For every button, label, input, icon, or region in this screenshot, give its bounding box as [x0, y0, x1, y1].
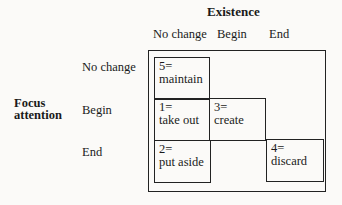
cell-action: create	[214, 114, 265, 127]
cell-discard: 4= discard	[266, 139, 324, 182]
row-group-title: Focus attention	[14, 97, 62, 121]
cell-action: put aside	[159, 156, 210, 169]
column-header-end: End	[269, 27, 289, 42]
cell-action: take out	[159, 114, 209, 127]
cell-action: discard	[271, 155, 323, 168]
cell-put-aside: 2= put aside	[154, 140, 211, 183]
column-header-begin: Begin	[217, 27, 247, 42]
column-group-title: Existence	[207, 4, 260, 20]
row-header-no-change: No change	[82, 60, 136, 75]
cell-take-out: 1= take out	[154, 98, 210, 141]
row-header-end: End	[82, 145, 102, 160]
row-header-begin: Begin	[82, 103, 112, 118]
column-header-no-change: No change	[153, 27, 207, 42]
cell-create: 3= create	[209, 98, 266, 141]
cell-action: maintain	[159, 73, 209, 86]
cell-maintain: 5= maintain	[154, 57, 210, 100]
row-group-title-line-2: attention	[14, 109, 62, 121]
